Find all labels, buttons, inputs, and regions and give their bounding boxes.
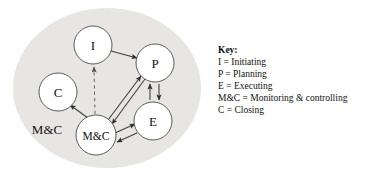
node-planning[interactable]: P: [136, 44, 174, 82]
key-title: Key:: [218, 44, 368, 56]
node-monitoring-controlling[interactable]: M&C: [76, 115, 116, 155]
node-executing[interactable]: E: [134, 102, 172, 140]
key-entry-closing: C = Closing: [218, 104, 368, 116]
node-initiating-label: I: [91, 38, 95, 53]
node-executing-label: E: [149, 114, 157, 129]
node-closing[interactable]: C: [39, 73, 77, 111]
node-planning-label: P: [151, 56, 158, 71]
key-entry-monitoring-controlling: M&C = Monitoring & controlling: [218, 92, 368, 104]
standalone-monitoring-label: M&C: [32, 122, 62, 137]
process-group-diagram: I P E M&C C M&C Key: I = Initiating: [0, 0, 374, 177]
key-legend: Key: I = Initiating P = Planning E = Exe…: [218, 44, 368, 116]
key-entry-initiating: I = Initiating: [218, 56, 368, 68]
node-monitoring-controlling-label: M&C: [83, 130, 110, 142]
node-closing-label: C: [54, 85, 63, 100]
node-initiating[interactable]: I: [74, 26, 112, 64]
key-entry-planning: P = Planning: [218, 68, 368, 80]
key-entry-executing: E = Executing: [218, 80, 368, 92]
